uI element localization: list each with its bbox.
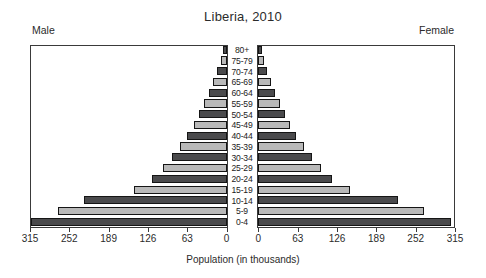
bar-female-35-39 bbox=[258, 142, 304, 150]
pyramid-row: 5-9 bbox=[0, 206, 486, 217]
chart-title: Liberia, 2010 bbox=[0, 9, 486, 24]
bar-female-65-69 bbox=[258, 78, 270, 86]
age-group-label-30-34: 30-34 bbox=[226, 153, 258, 163]
bar-female-75-79 bbox=[258, 56, 264, 64]
age-group-label-20-24: 20-24 bbox=[226, 174, 258, 184]
bar-female-50-54 bbox=[258, 110, 285, 118]
tick-female-126 bbox=[337, 228, 338, 232]
pyramid-row: 0-4 bbox=[0, 217, 486, 228]
age-group-label-55-59: 55-59 bbox=[226, 99, 258, 109]
age-group-label-35-39: 35-39 bbox=[226, 142, 258, 152]
pyramid-row: 20-24 bbox=[0, 174, 486, 185]
tick-male-63 bbox=[187, 228, 188, 232]
age-group-label-10-14: 10-14 bbox=[226, 196, 258, 206]
age-group-label-50-54: 50-54 bbox=[226, 110, 258, 120]
tick-label-male-63: 63 bbox=[182, 233, 193, 244]
pyramid-row: 55-59 bbox=[0, 99, 486, 110]
tick-female-0 bbox=[258, 228, 259, 232]
tick-label-female-315: 315 bbox=[447, 233, 464, 244]
bar-male-35-39 bbox=[180, 142, 227, 150]
tick-male-189 bbox=[109, 228, 110, 232]
tick-male-0 bbox=[227, 228, 228, 232]
age-group-label-25-29: 25-29 bbox=[226, 163, 258, 173]
tick-label-male-126: 126 bbox=[140, 233, 157, 244]
bar-male-10-14 bbox=[84, 196, 226, 204]
bar-female-15-19 bbox=[258, 186, 350, 194]
pyramid-row: 50-54 bbox=[0, 110, 486, 121]
bar-female-45-49 bbox=[258, 121, 290, 129]
tick-female-189 bbox=[376, 228, 377, 232]
bar-female-40-44 bbox=[258, 132, 296, 140]
bar-male-50-54 bbox=[199, 110, 226, 118]
female-side-label: Female bbox=[419, 24, 454, 36]
bar-female-25-29 bbox=[258, 164, 320, 172]
tick-label-female-252: 252 bbox=[407, 233, 424, 244]
tick-female-252 bbox=[416, 228, 417, 232]
tick-label-female-63: 63 bbox=[292, 233, 303, 244]
age-group-label-75-79: 75-79 bbox=[226, 56, 258, 66]
age-group-label-65-69: 65-69 bbox=[226, 77, 258, 87]
bar-female-30-34 bbox=[258, 153, 312, 161]
pyramid-row: 70-74 bbox=[0, 67, 486, 78]
male-side-label: Male bbox=[32, 24, 55, 36]
pyramid-row: 60-64 bbox=[0, 88, 486, 99]
tick-label-male-189: 189 bbox=[100, 233, 117, 244]
bar-female-0-4 bbox=[258, 218, 450, 226]
pyramid-row: 30-34 bbox=[0, 153, 486, 164]
bar-male-60-64 bbox=[209, 89, 226, 97]
pyramid-rows: 0-45-910-1415-1920-2425-2930-3435-3940-4… bbox=[0, 45, 486, 228]
population-pyramid-chart: Liberia, 2010 Male Female 0-45-910-1415-… bbox=[0, 0, 486, 278]
bar-female-60-64 bbox=[258, 89, 275, 97]
tick-female-63 bbox=[298, 228, 299, 232]
bar-female-5-9 bbox=[258, 207, 423, 215]
pyramid-row: 40-44 bbox=[0, 131, 486, 142]
tick-label-male-0: 0 bbox=[224, 233, 230, 244]
x-axis-title: Population (in thousands) bbox=[0, 254, 486, 265]
pyramid-row: 65-69 bbox=[0, 77, 486, 88]
pyramid-row: 75-79 bbox=[0, 56, 486, 67]
bar-female-55-59 bbox=[258, 99, 280, 107]
tick-label-female-126: 126 bbox=[329, 233, 346, 244]
bar-female-70-74 bbox=[258, 67, 267, 75]
bar-female-20-24 bbox=[258, 175, 332, 183]
age-group-label-70-74: 70-74 bbox=[226, 67, 258, 77]
bar-male-65-69 bbox=[213, 78, 226, 86]
age-group-label-5-9: 5-9 bbox=[226, 206, 258, 216]
tick-label-female-189: 189 bbox=[368, 233, 385, 244]
bar-male-5-9 bbox=[58, 207, 227, 215]
bar-male-40-44 bbox=[187, 132, 226, 140]
pyramid-row: 15-19 bbox=[0, 185, 486, 196]
bar-male-15-19 bbox=[134, 186, 227, 194]
bar-female-10-14 bbox=[258, 196, 398, 204]
tick-label-male-252: 252 bbox=[61, 233, 78, 244]
age-group-label-80+: 80+ bbox=[226, 45, 258, 55]
bar-male-30-34 bbox=[172, 153, 227, 161]
tick-female-315 bbox=[455, 228, 456, 232]
bar-female-80+ bbox=[258, 46, 262, 54]
bar-male-45-49 bbox=[194, 121, 226, 129]
pyramid-row: 80+ bbox=[0, 45, 486, 56]
age-group-label-40-44: 40-44 bbox=[226, 131, 258, 141]
tick-male-315 bbox=[30, 228, 31, 232]
pyramid-row: 25-29 bbox=[0, 163, 486, 174]
bar-male-0-4 bbox=[31, 218, 226, 226]
age-group-label-60-64: 60-64 bbox=[226, 88, 258, 98]
pyramid-row: 45-49 bbox=[0, 120, 486, 131]
tick-male-252 bbox=[69, 228, 70, 232]
age-group-label-15-19: 15-19 bbox=[226, 185, 258, 195]
tick-label-female-0: 0 bbox=[256, 233, 262, 244]
age-group-label-45-49: 45-49 bbox=[226, 120, 258, 130]
pyramid-row: 35-39 bbox=[0, 142, 486, 153]
pyramid-row: 10-14 bbox=[0, 196, 486, 207]
bar-male-55-59 bbox=[204, 99, 226, 107]
bar-male-20-24 bbox=[152, 175, 227, 183]
tick-label-male-315: 315 bbox=[22, 233, 39, 244]
age-group-label-0-4: 0-4 bbox=[226, 217, 258, 227]
tick-male-126 bbox=[148, 228, 149, 232]
bar-male-25-29 bbox=[163, 164, 227, 172]
